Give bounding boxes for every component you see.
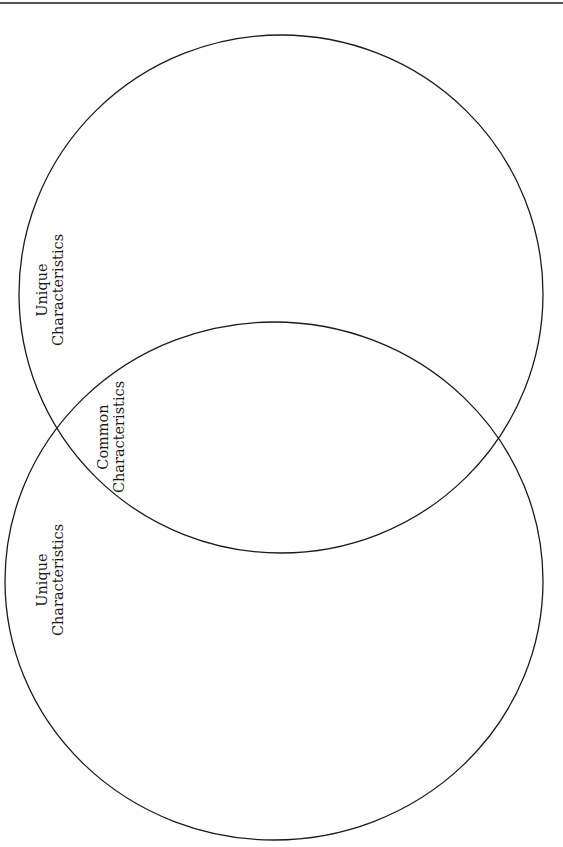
bottom-circle-label-line2: Characteristics [50, 524, 66, 636]
top-circle-label: Unique Characteristics [34, 234, 66, 346]
intersection-label: Common Characteristics [95, 381, 127, 493]
bottom-circle-label-line1: Unique [34, 524, 50, 636]
venn-diagram-page: Unique Characteristics Common Characteri… [0, 0, 563, 847]
bottom-circle-label: Unique Characteristics [34, 524, 66, 636]
intersection-label-line2: Characteristics [111, 381, 127, 493]
top-circle-label-line1: Unique [34, 234, 50, 346]
intersection-label-line1: Common [95, 381, 111, 493]
venn-diagram [0, 0, 563, 847]
bottom-circle [5, 322, 543, 840]
top-circle-label-line2: Characteristics [50, 234, 66, 346]
